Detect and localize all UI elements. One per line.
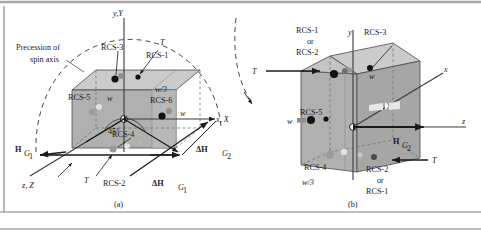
dim-w-left-b: w: [287, 117, 293, 126]
dim-w3-bottom-b: w/3: [302, 178, 314, 187]
precession-arc-b: [235, 18, 253, 104]
vector-label-dhg2: ΔH G 2: [196, 145, 231, 161]
rcs-3-label-b: RCS-3: [364, 28, 386, 37]
torque-label-left-b: T: [252, 67, 258, 76]
figure-container: Precession of spin axis y,Y x, X z, Z T …: [0, 0, 481, 231]
vector-label-hg1-main: H: [15, 145, 22, 154]
rcs-1-or-label-b-line1: RCS-1: [296, 26, 318, 35]
axis-label-y-a: y,Y: [112, 9, 124, 18]
axis-label-y-b: y: [347, 28, 352, 37]
panel-b: RCS-1 or RCS-2 y RCS-3 T T x z w w RCS-5…: [235, 18, 466, 209]
precession-label-line2: spin axis: [30, 55, 59, 64]
torque-label-top-a: T: [160, 38, 166, 47]
vector-label-hg2-sub2: 2: [407, 144, 411, 153]
dim-w-top-a: w: [107, 94, 113, 103]
rcs-6-label-a: RCS-6: [150, 96, 172, 105]
rcs-1-label-a: RCS-1: [146, 51, 168, 60]
vector-label-dhg1: ΔH G 1: [152, 179, 187, 195]
vector-label-hg2-main: H: [393, 137, 400, 146]
rcs-1-or-label-b-line2: or: [307, 37, 314, 46]
axis-label-x-a: x, X: [215, 115, 230, 124]
precession-arc-b-tip: [244, 92, 252, 104]
vector-label-dhg1-sub2: 1: [183, 186, 187, 195]
torque-label-right-b: T: [432, 156, 438, 165]
torque-label-bottom-a: T: [84, 176, 90, 185]
dim-w-top-b: w: [369, 72, 375, 81]
rcs-3-label-a: RCS-3: [101, 43, 123, 52]
angle-label-a: 45°: [108, 127, 119, 136]
axis-label-x-b: x: [443, 65, 448, 74]
rcs-2-or-label-b-line1: RCS-2: [366, 165, 388, 174]
vector-label-dhg2-sub2: 2: [227, 152, 231, 161]
panel-b-caption: (b): [348, 200, 358, 209]
precession-label-line1: Precession of: [16, 43, 60, 52]
technical-diagram: Precession of spin axis y,Y x, X z, Z T …: [0, 0, 481, 231]
vector-label-hg1-sub2: 1: [29, 152, 33, 161]
axis-label-z-b: z: [461, 117, 466, 126]
dim-w-right-a: w: [180, 109, 186, 118]
rcs-5-label-b: RCS-5: [300, 108, 322, 117]
rcs-2-label-a: RCS-2: [103, 179, 125, 188]
vector-label-dhg1-main: ΔH: [152, 179, 164, 188]
panel-a: Precession of spin axis y,Y x, X z, Z T …: [15, 9, 231, 209]
rcs-2-or-label-b-line2: or: [377, 176, 384, 185]
rcs-4-label-b: RCS-4: [304, 163, 326, 172]
vector-label-hg1: H G 1: [15, 145, 33, 161]
rcs-2-or-label-b-line3: RCS-1: [366, 187, 388, 196]
axis-label-z-a: z, Z: [21, 181, 34, 190]
panel-a-caption: (a): [114, 200, 123, 209]
rcs-1-or-label-b-line3: RCS-2: [296, 48, 318, 57]
precession-leader: [66, 60, 84, 72]
body-a-top-face: [72, 70, 200, 90]
rcs-5-label-a: RCS-5: [68, 93, 90, 102]
body-b-right-face: [357, 61, 420, 172]
vector-label-dhg2-main: ΔH: [196, 145, 208, 154]
dim-w3-top-a: w/3: [155, 85, 167, 94]
